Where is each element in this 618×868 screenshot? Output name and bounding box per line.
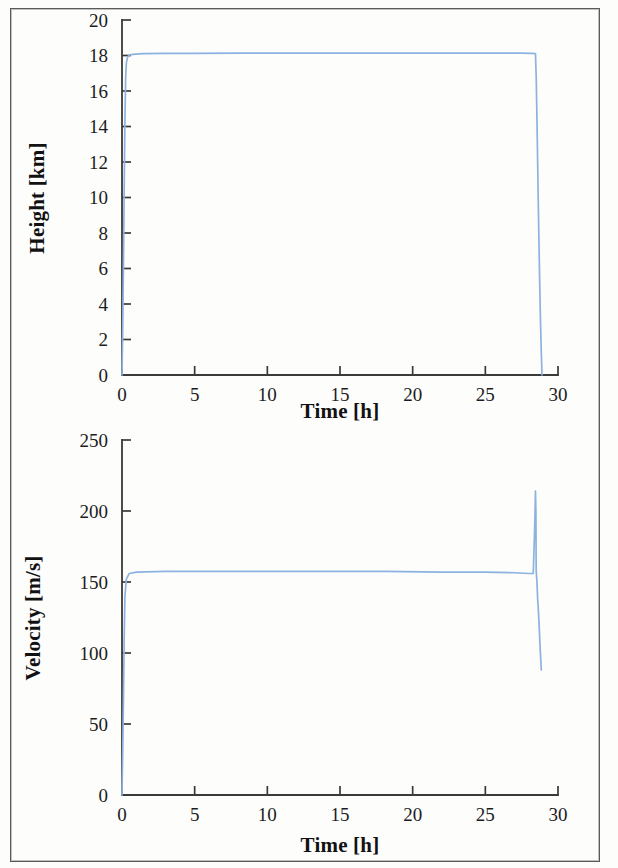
- x-tick-label: 5: [190, 804, 200, 825]
- velocity-plot-svg: 050100150200250051015202530 Velocity [m/…: [0, 420, 618, 868]
- x-tick-label: 20: [403, 804, 422, 825]
- x-tick-label: 10: [258, 384, 277, 405]
- y-tick-label: 100: [80, 643, 109, 664]
- x-axis-title-time: Time [h]: [301, 833, 380, 857]
- y-axis-title-height: Height [km]: [25, 142, 49, 253]
- figure-page: 02468101214161820051015202530 Height [km…: [0, 0, 618, 868]
- y-tick-label: 20: [89, 10, 108, 31]
- x-tick-label: 25: [476, 384, 495, 405]
- y-tick-label: 150: [80, 572, 109, 593]
- height-plot-svg: 02468101214161820051015202530 Height [km…: [0, 0, 618, 432]
- x-tick-label: 25: [476, 804, 495, 825]
- y-tick-label: 0: [99, 365, 109, 386]
- x-tick-label: 10: [258, 804, 277, 825]
- y-tick-label: 18: [89, 45, 108, 66]
- velocity-data-line: [122, 491, 541, 795]
- y-tick-label: 50: [89, 714, 108, 735]
- x-tick-label: 15: [331, 804, 350, 825]
- y-tick-label: 4: [99, 294, 109, 315]
- chart-velocity-vs-time: 050100150200250051015202530 Velocity [m/…: [0, 420, 618, 868]
- x-tick-label: 0: [117, 384, 127, 405]
- y-tick-label: 6: [99, 258, 109, 279]
- axis-spines: [122, 440, 558, 795]
- y-tick-label: 200: [80, 501, 109, 522]
- chart-height-vs-time: 02468101214161820051015202530 Height [km…: [0, 0, 618, 432]
- y-tick-label: 14: [89, 116, 109, 137]
- x-tick-label: 0: [117, 804, 127, 825]
- y-tick-label: 8: [99, 223, 109, 244]
- y-tick-label: 16: [89, 81, 108, 102]
- height-data-line: [122, 53, 542, 375]
- y-axis-title-velocity: Velocity [m/s]: [21, 555, 45, 680]
- y-tick-label: 0: [99, 785, 109, 806]
- axis-spines: [122, 20, 558, 375]
- x-tick-label: 30: [549, 384, 568, 405]
- y-tick-label: 2: [99, 329, 109, 350]
- y-tick-label: 12: [89, 152, 108, 173]
- y-tick-label: 10: [89, 187, 108, 208]
- x-tick-label: 20: [403, 384, 422, 405]
- x-tick-label: 5: [190, 384, 200, 405]
- y-tick-label: 250: [80, 430, 109, 451]
- x-tick-label: 30: [549, 804, 568, 825]
